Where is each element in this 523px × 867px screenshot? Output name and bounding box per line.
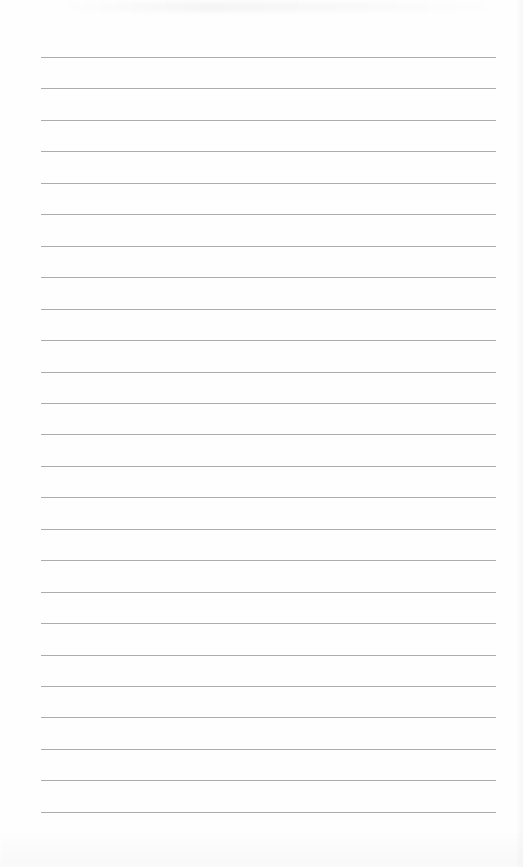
ruled-line	[41, 372, 496, 373]
ruled-line	[41, 497, 496, 498]
ruled-line	[41, 277, 496, 278]
lined-paper-page	[0, 0, 523, 867]
ruled-line	[41, 246, 496, 247]
ruled-line	[41, 655, 496, 656]
ruled-line	[41, 686, 496, 687]
ruled-line	[41, 88, 496, 89]
ruled-line	[41, 57, 496, 58]
ruled-line	[41, 403, 496, 404]
ruled-lines	[0, 0, 523, 867]
ruled-line	[41, 340, 496, 341]
ruled-line	[41, 183, 496, 184]
ruled-line	[41, 560, 496, 561]
ruled-line	[41, 309, 496, 310]
ruled-line	[41, 623, 496, 624]
ruled-line	[41, 151, 496, 152]
ruled-line	[41, 812, 496, 813]
ruled-line	[41, 120, 496, 121]
ruled-line	[41, 780, 496, 781]
ruled-line	[41, 717, 496, 718]
ruled-line	[41, 749, 496, 750]
ruled-line	[41, 592, 496, 593]
ruled-line	[41, 434, 496, 435]
ruled-line	[41, 466, 496, 467]
ruled-line	[41, 214, 496, 215]
ruled-line	[41, 529, 496, 530]
